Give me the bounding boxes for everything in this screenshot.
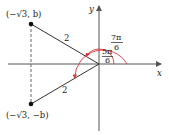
point-lower-label: (−√3, −b) xyxy=(6,110,49,120)
point-upper-label: (−√3, b) xyxy=(6,9,41,19)
unit-circle-diagram: (−√3, b) (−√3, −b) 2 2 y x 7π 6 5π 6 xyxy=(0,0,169,135)
point-lower xyxy=(29,102,34,107)
segment-lower xyxy=(31,64,99,104)
angle-label-7pi-6: 7π 6 xyxy=(111,33,123,52)
angle-7pi-6-numerator: 7π xyxy=(111,33,121,42)
angle-5pi-6-numerator: 5π xyxy=(102,47,112,56)
y-axis-label: y xyxy=(88,4,94,14)
segment-upper-length: 2 xyxy=(64,33,69,43)
angle-5pi-6-denominator: 6 xyxy=(105,56,110,65)
x-axis-label: x xyxy=(157,68,162,78)
angle-7pi-6-denominator: 6 xyxy=(114,43,119,52)
point-upper xyxy=(29,22,34,27)
segment-upper xyxy=(31,24,99,64)
segment-lower-length: 2 xyxy=(62,85,67,95)
